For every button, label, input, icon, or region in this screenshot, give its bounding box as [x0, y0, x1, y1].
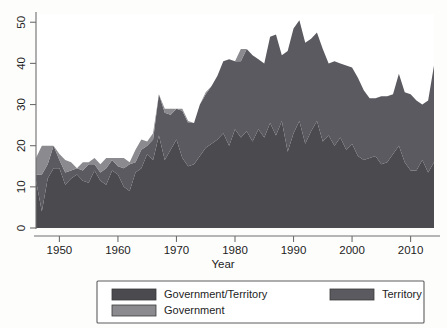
legend-swatch[interactable]	[330, 289, 374, 300]
legend-swatch[interactable]	[112, 289, 156, 300]
y-tick-label: 50	[15, 16, 27, 29]
x-axis-title: Year	[211, 258, 234, 270]
stacked-area-chart: 01020304050 1950196019701980199020002010…	[0, 0, 447, 328]
y-tick-label: 20	[15, 139, 27, 152]
y-tick-label: 0	[15, 225, 27, 231]
y-tick-label: 40	[15, 57, 27, 70]
x-tick-label: 2010	[398, 244, 424, 256]
x-tick-label: 1950	[47, 244, 73, 256]
x-tick-label: 1960	[105, 244, 131, 256]
legend-label: Territory	[382, 288, 422, 300]
legend-label: Government	[164, 304, 225, 316]
plot-area	[36, 14, 434, 228]
legend-swatch[interactable]	[112, 305, 156, 316]
x-tick-label: 1980	[222, 244, 248, 256]
chart-figure: 01020304050 1950196019701980199020002010…	[0, 0, 447, 328]
x-tick-label: 1970	[164, 244, 190, 256]
chart-legend: Government/TerritoryTerritoryGovernment	[97, 281, 424, 323]
legend-label: Government/Territory	[164, 288, 268, 300]
x-tick-label: 1990	[281, 244, 307, 256]
y-tick-label: 10	[15, 180, 27, 193]
x-tick-label: 2000	[339, 244, 365, 256]
y-tick-label: 30	[15, 98, 27, 111]
